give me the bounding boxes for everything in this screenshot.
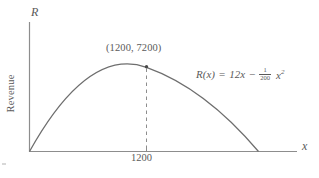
- equation-fraction-denominator: 200: [259, 75, 271, 82]
- equation-minus-sign: −: [248, 68, 256, 80]
- equation-exponent: 2: [281, 68, 285, 76]
- vertex-coordinate-label: (1200, 7200): [106, 42, 161, 53]
- page-edge-artifact: [2, 163, 6, 165]
- revenue-parabola-figure: [0, 0, 319, 178]
- equation-fraction: 1 200: [259, 67, 271, 82]
- function-equation-label: R(x) = 12x − 1 200 x2: [196, 67, 284, 82]
- vertex-point-marker: [145, 65, 148, 68]
- equation-fraction-numerator: 1: [263, 67, 268, 74]
- equation-equals-sign: =: [218, 68, 226, 80]
- y-axis-name-label: R: [31, 5, 38, 20]
- equation-first-term: 12x: [229, 68, 245, 80]
- x-axis-name-label: x: [302, 139, 307, 154]
- equation-left-hand-side: R(x): [196, 68, 215, 80]
- x-tick-label-1200: 1200: [131, 152, 152, 163]
- y-axis-title-revenue: Revenue: [5, 74, 16, 112]
- equation-variable-squared: x2: [276, 68, 284, 81]
